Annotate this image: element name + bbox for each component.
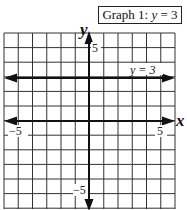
coordinate-plane: y = 3 y x −5 5 5 −5 [0,0,187,210]
x-axis-label: x [175,111,185,130]
x-axis-right-arrow-icon [162,117,175,126]
line-right-arrow-icon [162,74,175,83]
y-tick-neg5: −5 [73,183,86,197]
y-axis-label: y [78,20,88,39]
x-tick-pos5: 5 [157,124,163,138]
line-label: y = 3 [129,63,155,77]
x-tick-neg5: −5 [9,124,22,138]
line-left-arrow-icon [4,74,17,83]
y-tick-pos5: 5 [92,41,98,55]
